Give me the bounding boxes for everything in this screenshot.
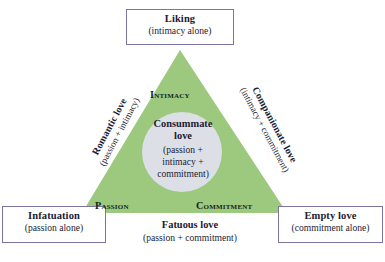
infatuation-subtitle: (passion alone) (7, 223, 101, 234)
liking-subtitle: (intimacy alone) (131, 26, 229, 37)
consummate-love-sub-line2: intimacy + (138, 156, 228, 167)
liking-title: Liking (131, 13, 229, 25)
consummate-love-sub-line1: (passion + (138, 144, 228, 155)
consummate-love-sub-line3: commitment) (138, 168, 228, 179)
consummate-love-label: Consummate love (passion + intimacy + co… (138, 118, 228, 179)
vertex-label-passion: Passion (95, 200, 129, 211)
consummate-love-title-line2: love (138, 130, 228, 142)
edge-label-fatuous-love: Fatuous love (passion + commitment) (95, 219, 285, 243)
consummate-love-title-line1: Consummate (138, 118, 228, 130)
empty-love-title: Empty love (283, 210, 378, 222)
fatuous-love-subtitle: (passion + commitment) (95, 232, 285, 243)
corner-box-empty-love: Empty love (commitment alone) (278, 206, 383, 243)
vertex-label-commitment: Commitment (196, 200, 252, 211)
figure-canvas: Liking (intimacy alone) Infatuation (pas… (0, 0, 385, 262)
infatuation-title: Infatuation (7, 210, 101, 222)
corner-box-infatuation: Infatuation (passion alone) (2, 206, 106, 243)
vertex-label-intimacy: Intimacy (150, 89, 190, 100)
empty-love-subtitle: (commitment alone) (283, 223, 378, 234)
fatuous-love-title: Fatuous love (95, 219, 285, 231)
corner-box-liking: Liking (intimacy alone) (126, 9, 234, 45)
